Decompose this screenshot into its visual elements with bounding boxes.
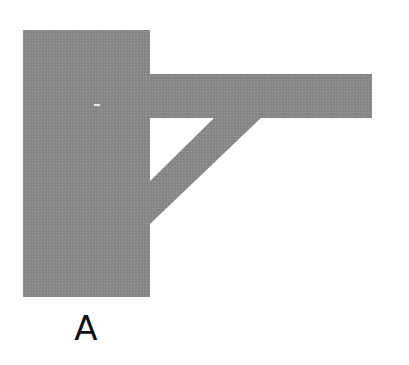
horizontal-beam: [148, 74, 372, 118]
speck-mark: [94, 104, 100, 106]
figure-label: A: [62, 308, 110, 348]
diagonal-brace: [148, 116, 263, 224]
wall-block: [23, 30, 150, 297]
diagram-canvas: A: [0, 0, 409, 365]
